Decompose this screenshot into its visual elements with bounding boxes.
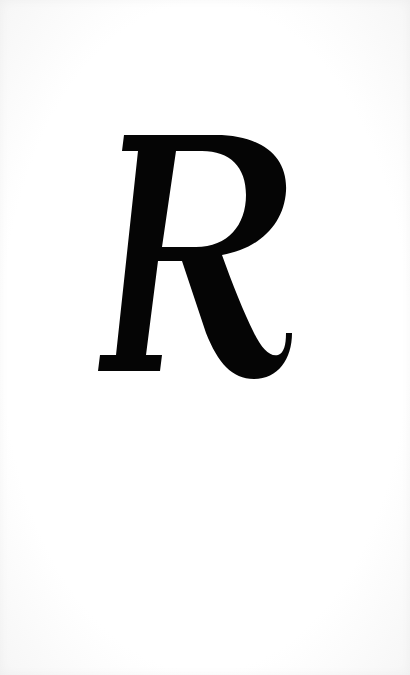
letter-r-glyph [96, 133, 292, 381]
scanned-page: R [0, 0, 410, 675]
large-italic-letter-r: R [96, 133, 292, 381]
